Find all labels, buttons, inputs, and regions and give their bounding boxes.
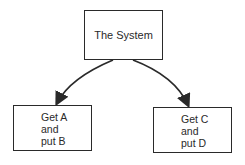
arrow-to-left-box [57,60,113,103]
left-line-1: Get A [41,111,67,123]
left-line-3: put B [41,135,67,147]
root-label: The System [94,29,153,41]
right-child-box: Get C and put D [153,107,232,153]
right-line-1: Get C [181,113,208,125]
arrow-to-right-box [133,60,188,105]
right-line-3: put D [181,137,208,149]
root-box: The System [84,10,163,60]
left-child-box: Get A and put B [13,105,92,151]
left-line-2: and [41,123,67,135]
right-line-2: and [181,125,208,137]
